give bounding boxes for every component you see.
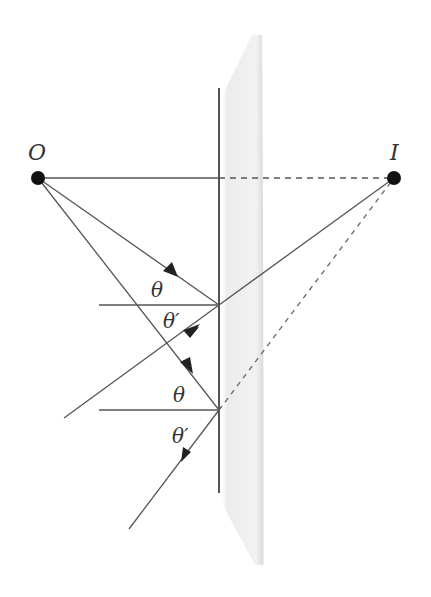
incident-ray-2 [38, 178, 219, 410]
diagram-svg: O I θ θ′ θ θ′ [0, 0, 431, 597]
image-point [387, 171, 401, 185]
object-point [31, 171, 45, 185]
reflection-diagram: O I θ θ′ θ θ′ [0, 0, 431, 597]
arrow-icon [180, 357, 193, 374]
object-label: O [28, 140, 46, 165]
incident-ray-1 [38, 178, 219, 305]
angle-theta-prime-2: θ′ [172, 424, 189, 448]
angle-theta-prime-1: θ′ [163, 309, 180, 333]
reflected-ray-1 [64, 305, 219, 418]
arrow-icon [163, 262, 178, 277]
image-label: I [389, 140, 400, 165]
angle-theta-1: θ [151, 278, 163, 302]
arrow-icon [183, 327, 199, 338]
angle-theta-2: θ [173, 383, 185, 407]
